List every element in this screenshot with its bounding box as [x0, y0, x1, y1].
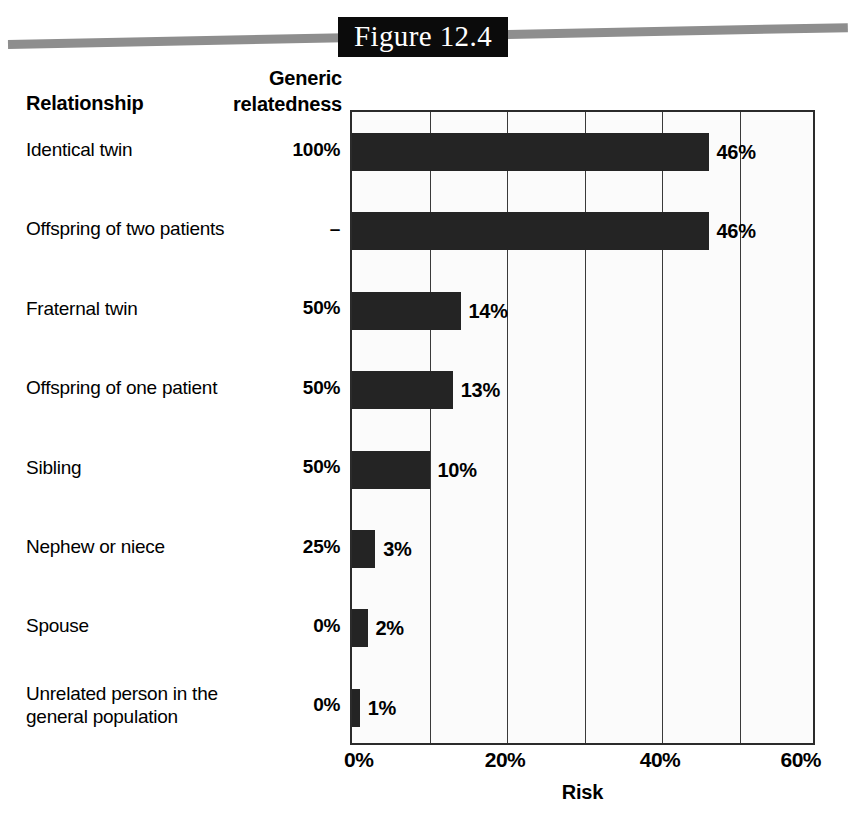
- x-axis-tick-label: 0%: [344, 748, 373, 772]
- bar-value-label: 3%: [383, 530, 411, 568]
- table-row: Offspring of two patients–: [0, 189, 348, 268]
- relationship-label-line: Fraternal twin: [26, 297, 256, 320]
- bar-value-label: 2%: [376, 609, 404, 647]
- bar-value-label: 13%: [461, 371, 500, 409]
- bar: [352, 689, 360, 727]
- bar-track: 46%: [352, 112, 813, 191]
- relationship-label-line: Offspring of one patient: [26, 376, 256, 399]
- row-label-column: Identical twin100%Offspring of two patie…: [0, 110, 348, 745]
- x-axis-tick-label: 40%: [640, 748, 681, 772]
- relationship-label: Identical twin: [26, 138, 256, 161]
- relationship-label-line: Spouse: [26, 614, 256, 637]
- gridline: [817, 112, 818, 743]
- x-axis-tick-label: 60%: [780, 748, 821, 772]
- x-axis-title: Risk: [350, 781, 815, 804]
- relationship-label: Unrelated person in thegeneral populatio…: [26, 682, 256, 728]
- relationship-label-line: Identical twin: [26, 138, 256, 161]
- bar-value-label: 14%: [469, 292, 508, 330]
- bar-track: 14%: [352, 271, 813, 350]
- chart-plot-area: 46%46%14%13%10%3%2%1%: [350, 110, 815, 745]
- relatedness-value: –: [236, 218, 340, 240]
- bar: [352, 371, 453, 409]
- relatedness-value: 50%: [236, 297, 340, 319]
- relatedness-value: 50%: [236, 456, 340, 478]
- figure-title: Figure 12.4: [354, 22, 492, 53]
- table-row: Sibling50%: [0, 428, 348, 507]
- bar: [352, 530, 375, 568]
- relatedness-value: 100%: [236, 139, 340, 161]
- bar-track: 10%: [352, 430, 813, 509]
- bar: [352, 133, 709, 171]
- relationship-label: Offspring of one patient: [26, 376, 256, 399]
- table-row: Offspring of one patient50%: [0, 348, 348, 427]
- relatedness-value: 0%: [236, 615, 340, 637]
- x-axis-tick-labels: 0%20%40%60%: [350, 748, 815, 776]
- relatedness-value: 25%: [236, 536, 340, 558]
- table-row: Unrelated person in thegeneral populatio…: [0, 666, 348, 745]
- relationship-label: Offspring of two patients: [26, 217, 256, 240]
- relationship-label: Spouse: [26, 614, 256, 637]
- relationship-label-line: Offspring of two patients: [26, 217, 256, 240]
- figure-header: Figure 12.4: [0, 0, 856, 70]
- relationship-label: Nephew or niece: [26, 535, 256, 558]
- table-row: Fraternal twin50%: [0, 269, 348, 348]
- bar: [352, 292, 461, 330]
- relationship-label-line: general population: [26, 705, 256, 728]
- bar-value-label: 10%: [438, 451, 477, 489]
- relationship-label: Fraternal twin: [26, 297, 256, 320]
- bar: [352, 451, 430, 489]
- bar-track: 2%: [352, 588, 813, 667]
- x-axis-tick-label: 20%: [485, 748, 526, 772]
- table-row: Nephew or niece25%: [0, 507, 348, 586]
- relationship-label: Sibling: [26, 456, 256, 479]
- relatedness-value: 0%: [236, 694, 340, 716]
- bar: [352, 609, 368, 647]
- relationship-label-line: Unrelated person in the: [26, 682, 256, 705]
- relatedness-value: 50%: [236, 377, 340, 399]
- table-row: Spouse0%: [0, 586, 348, 665]
- column-header-relatedness-line1: Generic: [200, 66, 342, 92]
- bar: [352, 212, 709, 250]
- bar-value-label: 46%: [717, 212, 756, 250]
- bar-track: 1%: [352, 668, 813, 747]
- bar-track: 46%: [352, 191, 813, 270]
- figure-title-box: Figure 12.4: [338, 17, 508, 57]
- relationship-label-line: Sibling: [26, 456, 256, 479]
- table-row: Identical twin100%: [0, 110, 348, 189]
- bar-value-label: 46%: [717, 133, 756, 171]
- bar-track: 3%: [352, 509, 813, 588]
- bar-value-label: 1%: [368, 689, 396, 727]
- bar-track: 13%: [352, 350, 813, 429]
- relationship-label-line: Nephew or niece: [26, 535, 256, 558]
